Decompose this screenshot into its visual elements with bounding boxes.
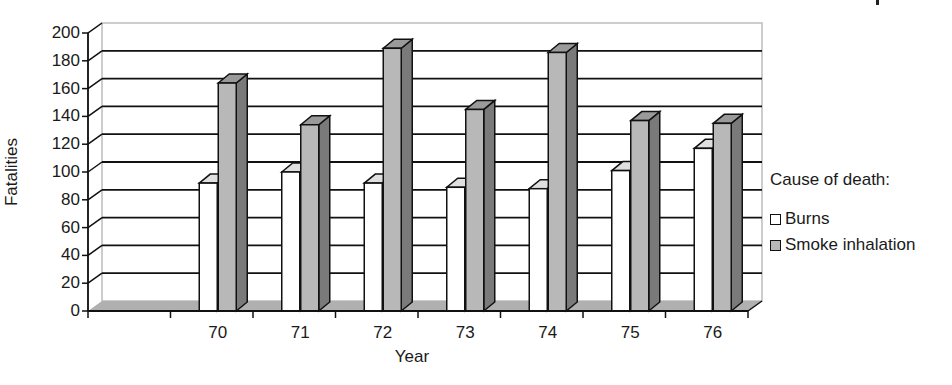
bar-burns — [199, 183, 217, 311]
y-tick-label: 120 — [30, 135, 80, 152]
side-grid-diagonal — [88, 273, 102, 283]
x-tick-label: 70 — [208, 323, 227, 343]
bar-smoke — [301, 125, 319, 311]
bar-burns — [529, 189, 547, 311]
bar-side — [484, 100, 495, 311]
y-tick-label: 140 — [30, 107, 80, 124]
cropped-glyph-fragment — [876, 0, 879, 5]
y-tick-label: 180 — [30, 52, 80, 69]
side-grid-diagonal — [88, 23, 102, 33]
bar-smoke — [548, 52, 566, 311]
legend-title: Cause of death: — [770, 170, 915, 190]
bar-smoke — [383, 48, 401, 311]
x-axis-label: Year — [395, 347, 429, 367]
bar-side — [401, 39, 412, 311]
bar-smoke — [713, 123, 731, 311]
y-tick-label: 40 — [30, 246, 80, 263]
side-grid-diagonal — [88, 162, 102, 172]
x-tick-label: 73 — [456, 323, 475, 343]
x-tick-label: 74 — [538, 323, 557, 343]
floor — [88, 301, 762, 311]
bar-burns — [694, 148, 712, 311]
y-tick-label: 80 — [30, 191, 80, 208]
x-tick-label: 76 — [703, 323, 722, 343]
bar-side — [649, 112, 660, 311]
x-tick-label: 75 — [621, 323, 640, 343]
side-grid-diagonal — [88, 245, 102, 255]
legend-item-smoke: Smoke inhalation — [770, 234, 915, 256]
x-tick-label: 71 — [291, 323, 310, 343]
side-grid-diagonal — [88, 190, 102, 200]
bar-burns — [282, 172, 300, 311]
bar-side — [731, 114, 742, 311]
y-tick-label: 100 — [30, 163, 80, 180]
bar-side — [236, 74, 247, 311]
burns-swatch-icon — [770, 214, 781, 225]
bar-burns — [447, 187, 465, 311]
legend-item-burns: Burns — [770, 208, 915, 230]
y-tick-label: 160 — [30, 80, 80, 97]
bar-burns — [612, 171, 630, 311]
side-grid-diagonal — [88, 106, 102, 116]
side-grid-diagonal — [88, 51, 102, 61]
bar-side — [566, 43, 577, 311]
side-grid-diagonal — [88, 134, 102, 144]
smoke-swatch-icon — [770, 240, 781, 251]
legend-label-burns: Burns — [785, 209, 829, 229]
legend: Cause of death: Burns Smoke inhalation — [770, 170, 915, 260]
legend-label-smoke: Smoke inhalation — [785, 235, 915, 255]
y-tick-label: 0 — [30, 302, 80, 319]
side-grid-diagonal — [88, 79, 102, 89]
y-tick-label: 20 — [30, 274, 80, 291]
bar-burns — [364, 183, 382, 311]
y-tick-label: 60 — [30, 219, 80, 236]
x-tick-label: 72 — [373, 323, 392, 343]
side-grid-diagonal — [88, 218, 102, 228]
bar-side — [319, 116, 330, 311]
y-tick-label: 200 — [30, 24, 80, 41]
bar-smoke — [631, 121, 649, 311]
y-axis-label: Fatalities — [2, 138, 22, 206]
bar-smoke — [218, 83, 236, 311]
bar-smoke — [466, 109, 484, 311]
